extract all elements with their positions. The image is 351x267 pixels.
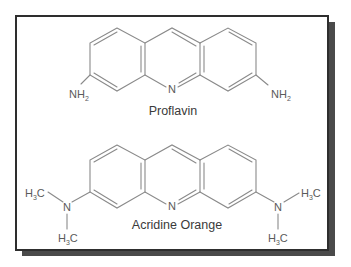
- ring-nitrogen: N: [168, 200, 176, 212]
- methyl-top-right: H3C: [301, 187, 321, 201]
- ring-nitrogen: N: [168, 83, 176, 95]
- amine-left: NH2: [69, 88, 89, 102]
- caption-proflavin: Proflavin: [149, 104, 198, 118]
- methyl-top-left: H3C: [25, 187, 45, 201]
- amine-right: NH2: [271, 88, 291, 102]
- methyl-bottom-left: H3C: [58, 232, 78, 246]
- amine-nitrogen-left: N: [63, 201, 71, 213]
- methyl-bottom-right: H3C: [268, 232, 288, 246]
- molecule-proflavin: N NH2 NH2 Proflavin: [69, 28, 291, 118]
- molecule-acridine-orange: N N H3C H3C N H3C H3C Acridine Orange: [25, 145, 321, 246]
- structure-diagram: N NH2 NH2 Proflavin N N H3C: [0, 0, 351, 267]
- acridine-core: [90, 145, 256, 208]
- caption-acridine-orange: Acridine Orange: [132, 218, 222, 232]
- acridine-core: [90, 28, 256, 91]
- amine-nitrogen-right: N: [274, 201, 282, 213]
